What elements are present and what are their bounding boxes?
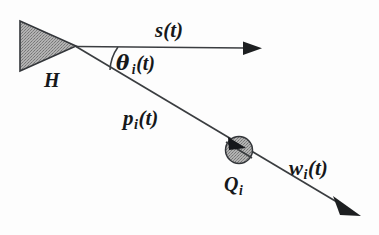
label-sight-vector-text: s(t) xyxy=(155,18,183,42)
target-circle-icon xyxy=(226,137,253,164)
figure-canvas: s(t) H θi(t) pi(t) Qi wi(t) xyxy=(0,0,379,235)
label-position-vector-arg: (t) xyxy=(138,106,158,130)
label-position-vector: pi(t) xyxy=(123,108,158,131)
sight-line-arrow xyxy=(76,42,262,56)
label-target-vector-symbol: w xyxy=(289,156,303,180)
diagram-svg xyxy=(0,0,379,235)
label-head: H xyxy=(44,70,60,90)
label-angle-symbol: θ xyxy=(116,51,129,75)
label-target-vector-arg: (t) xyxy=(308,156,328,180)
label-angle: θi(t) xyxy=(116,53,155,76)
head-triangle-icon xyxy=(20,21,76,71)
label-target-vector: wi(t) xyxy=(289,158,328,181)
label-target: Qi xyxy=(224,174,243,197)
label-angle-arg: (t) xyxy=(136,52,155,74)
label-position-vector-symbol: p xyxy=(123,106,134,130)
label-target-symbol: Q xyxy=(224,173,238,195)
label-target-subscript: i xyxy=(238,183,243,198)
label-sight-vector: s(t) xyxy=(155,20,183,41)
label-head-text: H xyxy=(44,69,60,91)
